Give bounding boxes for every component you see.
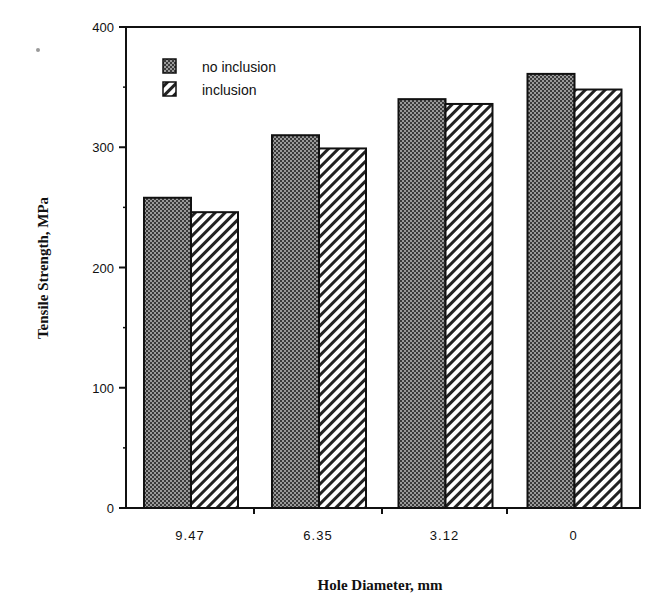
bars	[144, 74, 622, 508]
bar-no-inclusion-9.47	[144, 198, 191, 508]
legend-swatch-no-inclusion	[163, 59, 176, 73]
y-axis-title: Tensile Strength, MPa	[35, 196, 51, 339]
legend-label-inclusion: inclusion	[202, 82, 256, 98]
bar-no-inclusion-6.35	[272, 135, 319, 508]
legend-label-no-inclusion: no inclusion	[202, 59, 276, 75]
legend: no inclusion inclusion	[163, 59, 276, 98]
bar-inclusion-9.47	[191, 212, 238, 508]
bar-inclusion-6.35	[319, 148, 366, 508]
bar-chart: 0100200300400 9.476.353.120 no inclusion…	[0, 0, 660, 607]
y-tick-label: 0	[107, 501, 114, 516]
y-tick-label: 100	[92, 381, 114, 396]
x-tick-label: 6.35	[303, 528, 332, 543]
bar-no-inclusion-3.12	[399, 99, 446, 508]
x-axis: 9.476.353.120	[175, 508, 577, 543]
x-tick-label: 9.47	[175, 528, 204, 543]
y-tick-label: 400	[92, 20, 114, 35]
y-tick-label: 200	[92, 261, 114, 276]
x-tick-label: 0	[569, 528, 577, 543]
legend-swatch-inclusion	[163, 82, 176, 96]
bar-no-inclusion-0	[528, 74, 575, 508]
y-axis: 0100200300400	[92, 20, 126, 516]
scan-artifact-dot	[36, 48, 40, 52]
y-tick-label: 300	[92, 140, 114, 155]
x-tick-label: 3.12	[430, 528, 459, 543]
bar-inclusion-3.12	[446, 104, 493, 508]
bar-inclusion-0	[575, 90, 622, 508]
x-axis-title: Hole Diameter, mm	[318, 577, 443, 593]
